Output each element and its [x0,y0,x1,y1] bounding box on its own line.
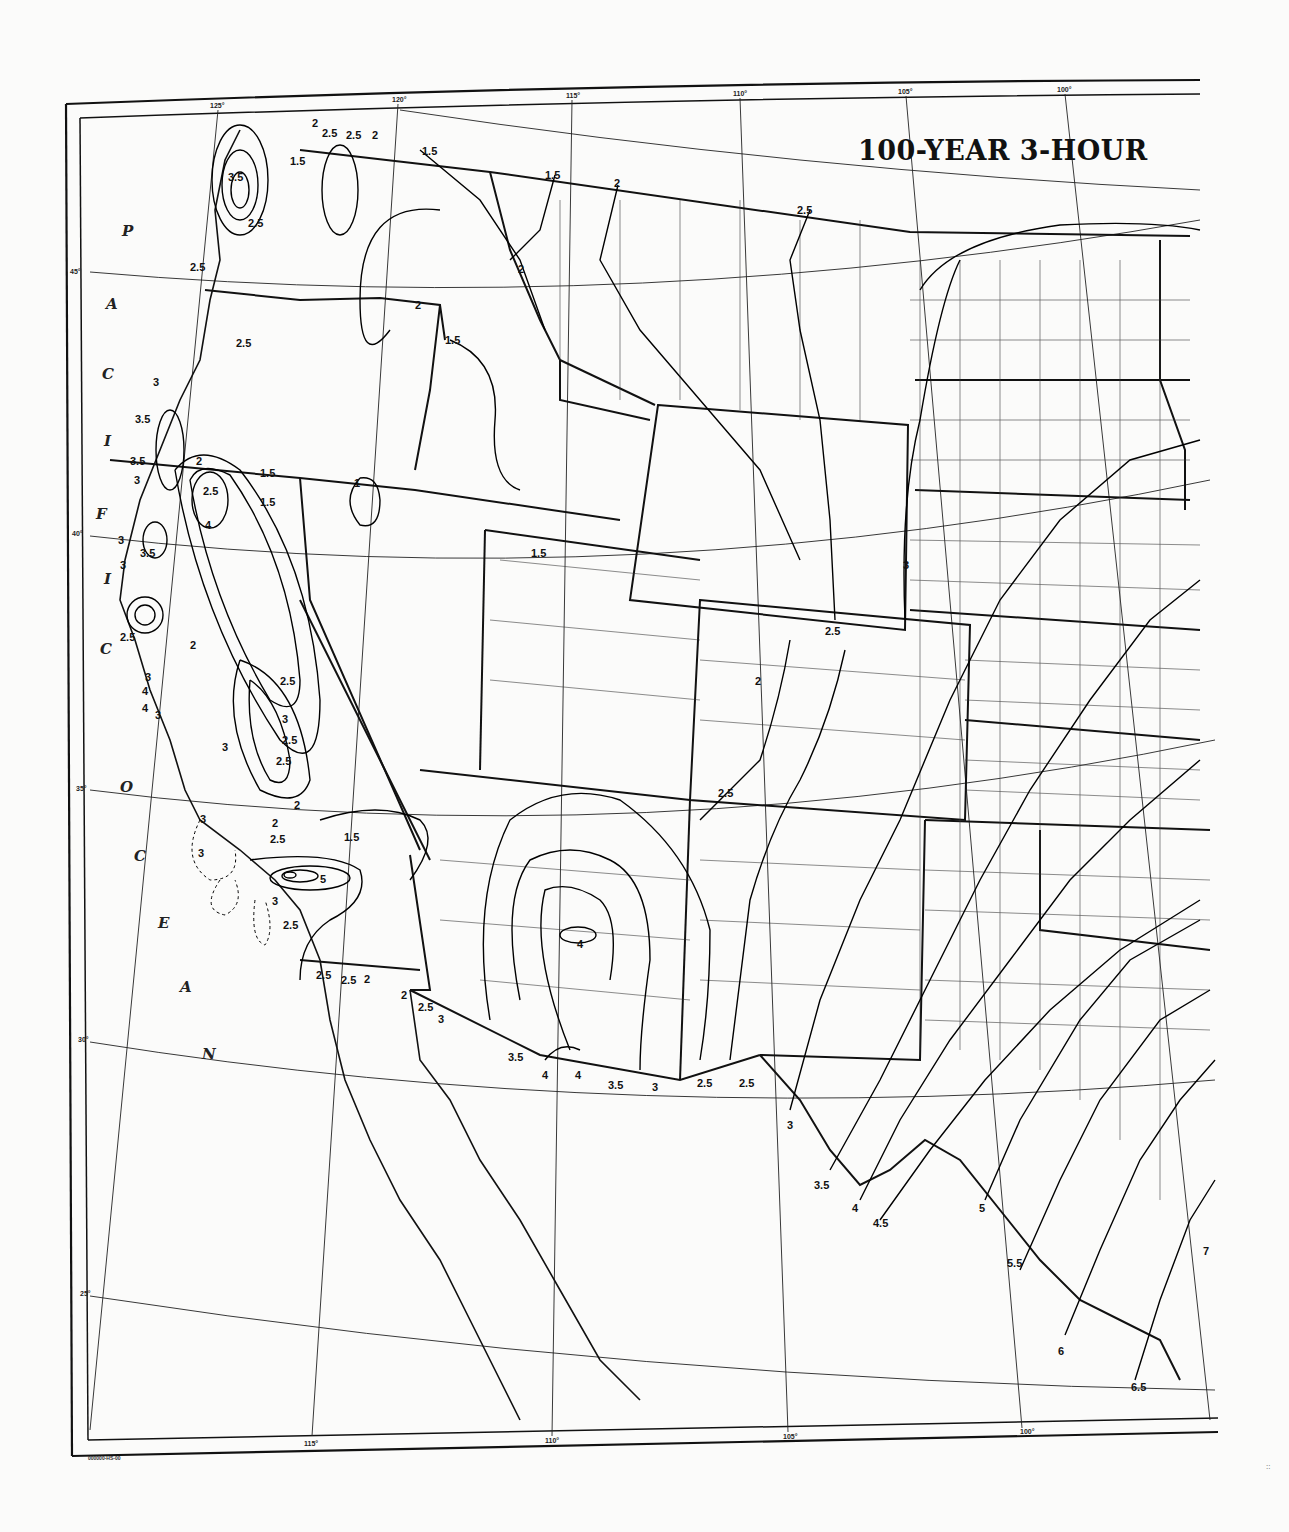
contour-label: 3 [903,560,909,571]
latitude-tick-label: 25° [80,1290,91,1297]
contour-label: 2.5 [825,626,840,637]
contour-label: 4 [205,520,211,531]
contour-label: 6 [1058,1346,1064,1357]
ocean-label-letter: I [104,570,111,588]
longitude-tick-label: 100° [1020,1428,1034,1435]
contour-label: 3.5 [814,1180,829,1191]
contour-label: 3 [787,1120,793,1131]
latitude-tick-label: 30° [78,1036,89,1043]
contour-label: 3 [145,672,151,683]
isopluvial-contours [127,125,1215,1380]
longitude-tick-label: 110° [545,1437,559,1444]
ocean-label-letter: C [134,847,146,865]
contour-label: 3.5 [140,548,155,559]
contour-label: 2 [415,300,421,311]
contour-label: 2.5 [346,130,361,141]
contour-label: 2.5 [316,970,331,981]
ocean-label-letter: I [104,432,111,450]
contour-label: 2.5 [341,975,356,986]
contour-label: 2.5 [203,486,218,497]
map-graphics [0,0,1289,1532]
longitude-tick-label: 115° [304,1440,318,1447]
longitude-tick-label: 120° [392,96,406,103]
contour-label: 3.5 [135,414,150,425]
ocean-label-letter: A [106,295,118,313]
contour-label: 2 [372,130,378,141]
contour-label: 1.5 [290,156,305,167]
ocean-label-letter: F [96,505,107,523]
contour-label: 2.5 [283,920,298,931]
contour-label: 1.5 [260,497,275,508]
contour-label: 2.5 [418,1002,433,1013]
contour-label: 2 [272,818,278,829]
ocean-label-letter: C [100,640,112,658]
contour-label: 5 [979,1203,985,1214]
contour-label: 3 [272,896,278,907]
contour-label: 4 [142,686,148,697]
longitude-tick-label: 105° [898,88,912,95]
contour-label: 3.5 [228,172,243,183]
contour-label: 5.5 [1007,1258,1022,1269]
ocean-label-letter: O [120,778,133,796]
ocean-label-letter: E [158,914,169,932]
longitude-tick-label: 105° [783,1433,797,1440]
longitude-tick-label: 115° [566,92,580,99]
contour-label: 2.5 [190,262,205,273]
contour-label: 2.5 [276,756,291,767]
contour-label: 7 [1203,1246,1209,1257]
contour-label: 2.5 [280,676,295,687]
contour-label: 3 [222,742,228,753]
contour-label: 3 [153,377,159,388]
contour-label: 3 [134,475,140,486]
contour-label: 2.5 [739,1078,754,1089]
contour-label: 2.5 [697,1078,712,1089]
contour-label: 2 [294,800,300,811]
contour-label: 1.5 [545,170,560,181]
contour-label: 3 [438,1014,444,1025]
contour-label: 2.5 [797,205,812,216]
contour-label: 3 [282,714,288,725]
contour-label: 2.5 [236,338,251,349]
contour-label: 1 [354,478,360,489]
contour-label: 3.5 [608,1080,623,1091]
longitude-tick-label: 100° [1057,86,1071,93]
contour-label: 1.5 [344,832,359,843]
contour-label: 5 [320,874,326,885]
contour-label: 1.5 [445,335,460,346]
contour-label: 2 [518,264,524,275]
contour-label: 3 [155,710,161,721]
contour-label: 2 [755,676,761,687]
contour-label: 2 [401,990,407,1001]
map-title: 100-YEAR 3-HOUR [858,135,1148,166]
contour-label: 2.5 [248,218,263,229]
contour-label: 2.5 [718,788,733,799]
contour-label: 3 [118,535,124,546]
contour-label: 4 [577,939,583,950]
latitude-tick-label: 40° [72,530,83,537]
plate-stamp: 000000-HS-00 [88,1455,121,1461]
graticule-parallels [90,110,1215,1390]
contour-label: 4 [142,703,148,714]
contour-label: 2.5 [270,834,285,845]
contour-label: 3.5 [508,1052,523,1063]
contour-label: 2 [196,456,202,467]
contour-label: 3 [198,848,204,859]
contour-label: 2.5 [120,632,135,643]
contour-label: 6.5 [1131,1382,1146,1393]
ocean-label-letter: C [102,365,114,383]
contour-label: 3 [200,814,206,825]
contour-label: 4 [542,1070,548,1081]
contour-label: 2 [312,118,318,129]
state-boundaries [110,150,1210,1380]
ocean-label-letter: P [122,222,133,240]
isopluvial-map-sheet: 100-YEAR 3-HOUR 125° 120° 115° 110° 105°… [0,0,1289,1532]
contour-label: 2 [364,974,370,985]
contour-label: 2.5 [282,735,297,746]
contour-label: 3 [120,560,126,571]
contour-label: 2.5 [322,128,337,139]
contour-label: 3.5 [130,456,145,467]
contour-label: 1.5 [422,146,437,157]
contour-label: 2 [190,640,196,651]
ocean-label-letter: N [202,1045,216,1063]
ocean-label-letter: A [180,978,192,996]
